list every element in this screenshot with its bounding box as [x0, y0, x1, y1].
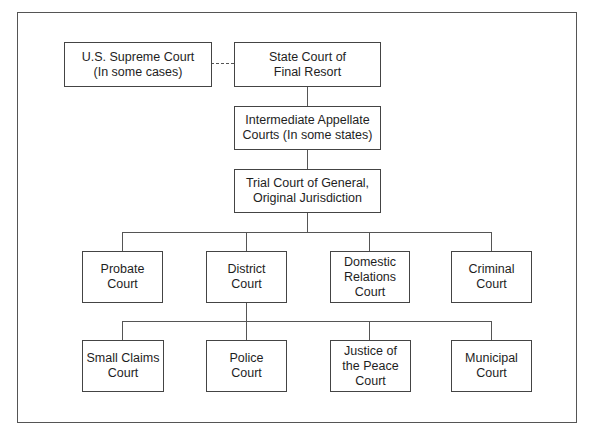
node-state-court-final-resort: State Court of Final Resort — [234, 42, 381, 87]
node-intermediate-appellate: Intermediate Appellate Courts (In some s… — [234, 106, 381, 150]
connector-to-domestic — [369, 232, 370, 251]
connector-to-criminal — [491, 232, 492, 251]
connector-row1-horizontal — [122, 232, 492, 233]
connector-to-probate — [122, 232, 123, 251]
node-us-supreme-court: U.S. Supreme Court (In some cases) — [64, 42, 212, 87]
connector-row2-horizontal — [122, 321, 492, 322]
connector-to-district — [246, 232, 247, 251]
node-trial-court: Trial Court of General, Original Jurisdi… — [234, 169, 381, 213]
connector-state-intermediate — [307, 86, 308, 106]
connector-to-justice-peace — [369, 321, 370, 340]
node-municipal-court: Municipal Court — [451, 340, 532, 392]
connector-district-down — [246, 303, 247, 322]
node-police-court: Police Court — [206, 340, 287, 392]
connector-to-police — [246, 321, 247, 340]
connector-trial-down — [307, 213, 308, 232]
node-domestic-relations-court: Domestic Relations Court — [330, 251, 410, 303]
node-small-claims-court: Small Claims Court — [82, 340, 164, 392]
connector-intermediate-trial — [307, 150, 308, 169]
dashed-connector-supreme-state — [211, 63, 234, 64]
node-justice-of-the-peace-court: Justice of the Peace Court — [330, 340, 411, 392]
connector-to-small-claims — [122, 321, 123, 340]
node-probate-court: Probate Court — [82, 251, 163, 303]
connector-to-municipal — [491, 321, 492, 340]
node-district-court: District Court — [206, 251, 287, 303]
node-criminal-court: Criminal Court — [451, 251, 532, 303]
